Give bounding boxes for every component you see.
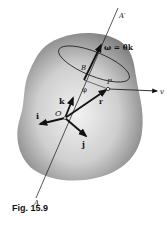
rigid-body-rotation-diagram: A′ A ω = θ̇k B P φ r v k i j O — [0, 0, 168, 226]
label-origin: O — [55, 109, 62, 118]
label-unit-j: j — [81, 139, 85, 149]
label-point-p: P — [106, 78, 112, 86]
label-axis-top: A′ — [118, 12, 126, 20]
label-vector-r: r — [99, 97, 103, 106]
point-p-marker — [106, 87, 109, 90]
label-point-b: B — [80, 64, 86, 72]
label-unit-k: k — [59, 96, 65, 106]
label-angle-phi: φ — [82, 86, 87, 94]
figure-caption: Fig. 15.9 — [12, 203, 48, 213]
label-omega: ω = θ̇k — [104, 43, 134, 52]
label-unit-i: i — [36, 111, 39, 121]
label-vector-v: v — [160, 88, 164, 96]
origin-marker — [64, 117, 67, 120]
